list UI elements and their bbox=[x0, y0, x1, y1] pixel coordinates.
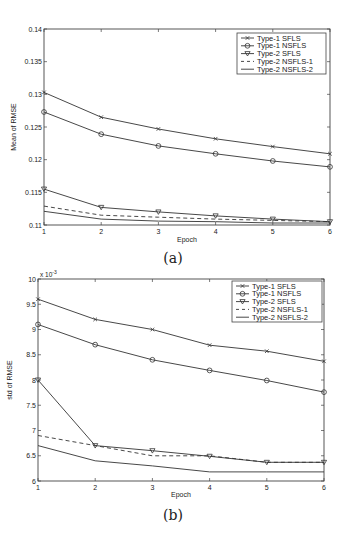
series-line bbox=[38, 380, 324, 462]
series-line bbox=[44, 92, 330, 153]
legend-label: Type-2 NSFLS-2 bbox=[257, 65, 313, 74]
y-axis-label: Mean of RMSE bbox=[10, 103, 17, 151]
y-tick-label: 7 bbox=[32, 427, 36, 434]
y-tick-label: 0.125 bbox=[24, 124, 42, 131]
series-type-1-sfls bbox=[42, 91, 332, 156]
series-type-2-nsfls-1 bbox=[38, 436, 324, 463]
series-line bbox=[44, 112, 330, 167]
y-tick-label: 9 bbox=[32, 326, 36, 333]
x-tick-label: 1 bbox=[42, 228, 46, 235]
x-tick-label: 5 bbox=[265, 484, 269, 491]
y-tick-label: 8.5 bbox=[26, 351, 36, 358]
y-tick-label: 8 bbox=[32, 377, 36, 384]
x-tick-label: 1 bbox=[36, 484, 40, 491]
y-tick-label: 0.13 bbox=[28, 91, 42, 98]
y-tick-label: 7.5 bbox=[26, 402, 36, 409]
series-type-1-nsfls bbox=[42, 110, 333, 170]
y-tick-label: 9.5 bbox=[26, 301, 36, 308]
x-tick-label: 5 bbox=[271, 228, 275, 235]
y-tick-label: 0.11 bbox=[29, 222, 42, 229]
y-tick-label: 0.12 bbox=[28, 156, 42, 163]
series-type-1-nsfls bbox=[36, 322, 327, 394]
y-tick-label: 0.115 bbox=[25, 189, 42, 196]
x-tick-label: 3 bbox=[150, 484, 154, 491]
series-type-2-sfls bbox=[35, 378, 326, 465]
y-axis-label: std of RMSE bbox=[6, 360, 13, 400]
y-tick-label: 6.5 bbox=[26, 452, 36, 459]
x-tick-label: 3 bbox=[156, 228, 160, 235]
figure: 1234560.110.1150.120.1250.130.1350.14Epo… bbox=[0, 0, 346, 546]
x-axis-label: Epoch bbox=[171, 491, 191, 499]
chart-b-std-rmse: 12345666.577.588.599.510x 10-3Epochstd o… bbox=[6, 269, 327, 523]
x-tick-label: 2 bbox=[99, 228, 103, 235]
legend: Type-1 SFLSType-1 NSFLSType-2 SFLSType-2… bbox=[232, 281, 322, 322]
y-exponent-label: x 10-3 bbox=[40, 269, 57, 278]
x-tick-label: 6 bbox=[322, 484, 326, 491]
x-tick-label: 4 bbox=[208, 484, 212, 491]
x-tick-label: 4 bbox=[214, 228, 218, 235]
series-line bbox=[38, 446, 324, 472]
figure-caption: (b) bbox=[163, 507, 183, 523]
legend-label: Type-2 NSFLS-2 bbox=[252, 313, 308, 322]
series-line bbox=[38, 436, 324, 463]
x-axis-label: Epoch bbox=[177, 236, 197, 244]
y-tick-label: 10 bbox=[28, 276, 36, 283]
figure-caption: (a) bbox=[163, 250, 182, 266]
y-tick-label: 0.14 bbox=[28, 26, 42, 33]
x-tick-label: 6 bbox=[328, 228, 332, 235]
x-tick-label: 2 bbox=[93, 484, 97, 491]
chart-a-mean-rmse: 1234560.110.1150.120.1250.130.1350.14Epo… bbox=[10, 26, 333, 267]
y-tick-label: 0.135 bbox=[24, 58, 42, 65]
series-type-2-nsfls-2 bbox=[38, 446, 324, 472]
series-line bbox=[38, 325, 324, 393]
y-tick-label: 6 bbox=[32, 478, 36, 485]
legend: Type-1 SFLSType-1 NSFLSType-2 SFLSType-2… bbox=[237, 33, 326, 74]
